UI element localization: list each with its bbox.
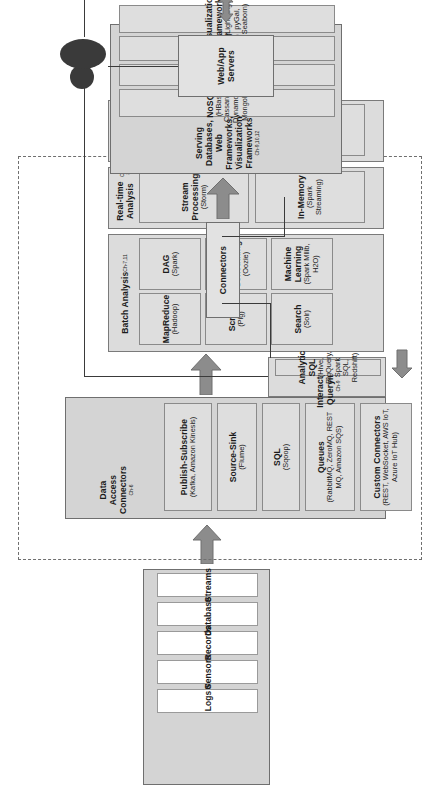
- querying-card-detail: (Hive, BigQuery, Spark SQL, Redshift): [317, 351, 360, 383]
- raw-data-item: Sensors: [157, 660, 258, 684]
- raw-data-item-label: Streams: [203, 568, 213, 602]
- user-silhouette-icon: [58, 37, 110, 91]
- batch-analysis-title-text: Batch Analysis: [120, 272, 130, 334]
- batch-card-detail: (Oozie): [242, 252, 251, 276]
- user-body-icon: [60, 39, 106, 69]
- link-user-vertical: [108, 66, 178, 67]
- batch-card: Search (Solr): [271, 293, 333, 345]
- diagram-canvas: Raw Data Logs Sensors Records Databases …: [0, 0, 438, 807]
- serving-title: Serving Databases, Web Frameworks, Visua…: [119, 120, 335, 166]
- link-querying-to-connectors: [222, 303, 270, 304]
- link-realtime-to-connectors: [222, 236, 284, 237]
- querying-card-name: Analytic SQL: [297, 351, 317, 385]
- batch-card: MapReduce (Hadoop): [139, 293, 201, 345]
- raw-data-item: Streams: [157, 573, 258, 597]
- batch-card-detail: (Hadoop): [171, 304, 180, 335]
- interactive-querying-group: Interactive Querying Ch-9 Analytic SQL (…: [268, 357, 386, 397]
- web-app-servers-box: Web/App Servers: [178, 35, 274, 97]
- serving-title-text: Serving Databases, Web Frameworks, Visua…: [194, 116, 254, 170]
- realtime-card-name: Stream Processing: [180, 174, 200, 221]
- link-querying-to-connectors-h: [270, 303, 271, 358]
- batch-card-detail: (Spark): [171, 252, 180, 276]
- batch-card-detail: (Solr): [303, 310, 312, 328]
- batch-card-name: Machine Learning: [283, 241, 303, 287]
- raw-data-group: Raw Data Logs Sensors Records Databases …: [143, 569, 270, 785]
- raw-data-item: Databases: [157, 602, 258, 626]
- realtime-analysis-title-text: Real-time Analysis: [115, 177, 135, 225]
- diagram-stage: Raw Data Logs Sensors Records Databases …: [0, 0, 438, 807]
- arrow-serving-to-webapp: [212, 0, 240, 23]
- batch-analysis-group: Batch Analysis Ch-7,11 MapReduce (Hadoop…: [108, 234, 384, 352]
- link-user-to-webapp: [84, 0, 85, 37]
- batch-analysis-chapter: Ch-7,11: [122, 254, 128, 271]
- link-user-long-horizontal: [84, 85, 85, 377]
- batch-card: Machine Learning (Spark Mllib, H2O): [271, 238, 333, 290]
- raw-data-item-label: Logs: [203, 691, 213, 712]
- batch-analysis-title: Batch Analysis Ch-7,11: [117, 241, 133, 347]
- realtime-analysis-group: Real-time Analysis Ch-8 Stream Processin…: [108, 167, 384, 229]
- web-app-servers-label: Web/App Servers: [216, 36, 236, 96]
- batch-card-detail: (Spark Mllib, H2O): [303, 241, 320, 287]
- raw-data-item: Logs: [157, 689, 258, 713]
- link-realtime-to-connectors-h: [284, 197, 285, 237]
- link-user-long-vertical: [84, 376, 268, 377]
- arrow-storage-to-batch: [390, 349, 414, 379]
- batch-card: DAG (Spark): [139, 238, 201, 290]
- connectors-label: Connectors: [218, 246, 228, 294]
- querying-card: Analytic SQL (Hive, BigQuery, Spark SQL,…: [275, 359, 381, 376]
- realtime-analysis-title: Real-time Analysis Ch-8: [117, 169, 133, 225]
- realtime-card: In-Memory (Spark Streaming): [255, 171, 365, 223]
- realtime-card-detail: (Spark Streaming): [306, 174, 323, 220]
- arrow-connectors-to-serving: [205, 177, 241, 219]
- serving-chapter: Ch-9,10,12: [254, 131, 260, 156]
